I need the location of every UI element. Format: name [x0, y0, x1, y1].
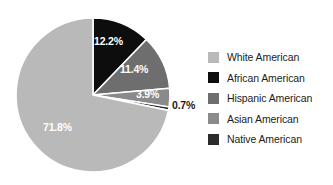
chart-legend: White AmericanAfrican AmericanHispanic A… — [208, 47, 333, 150]
legend-item-native-american[interactable]: Native American — [208, 129, 333, 150]
slice-value-white-american: 71.8% — [43, 122, 72, 133]
pie-plot-area: 12.2% 11.4% 3.9% 0.7% 71.8% — [0, 0, 205, 185]
pie-chart-figure: 12.2% 11.4% 3.9% 0.7% 71.8% White Americ… — [0, 0, 333, 185]
legend-item-hispanic-american[interactable]: Hispanic American — [208, 88, 333, 109]
legend-swatch-white-american — [208, 52, 219, 63]
legend-swatch-african-american — [208, 72, 219, 83]
pie-svg — [0, 0, 205, 185]
legend-item-asian-american[interactable]: Asian American — [208, 109, 333, 130]
slice-value-hispanic-american: 11.4% — [120, 64, 148, 75]
slice-value-african-american: 12.2% — [94, 36, 123, 47]
legend-label-asian-american: Asian American — [227, 114, 299, 125]
legend-label-african-american: African American — [227, 73, 305, 84]
legend-swatch-asian-american — [208, 113, 219, 124]
legend-label-native-american: Native American — [227, 134, 302, 145]
legend-label-hispanic-american: Hispanic American — [227, 93, 312, 104]
legend-item-african-american[interactable]: African American — [208, 68, 333, 89]
slice-value-asian-american: 3.9% — [136, 89, 159, 100]
legend-swatch-native-american — [208, 134, 219, 145]
legend-label-white-american: White American — [227, 52, 299, 63]
legend-item-white-american[interactable]: White American — [208, 47, 333, 68]
slice-value-native-american: 0.7% — [172, 100, 195, 111]
legend-swatch-hispanic-american — [208, 93, 219, 104]
